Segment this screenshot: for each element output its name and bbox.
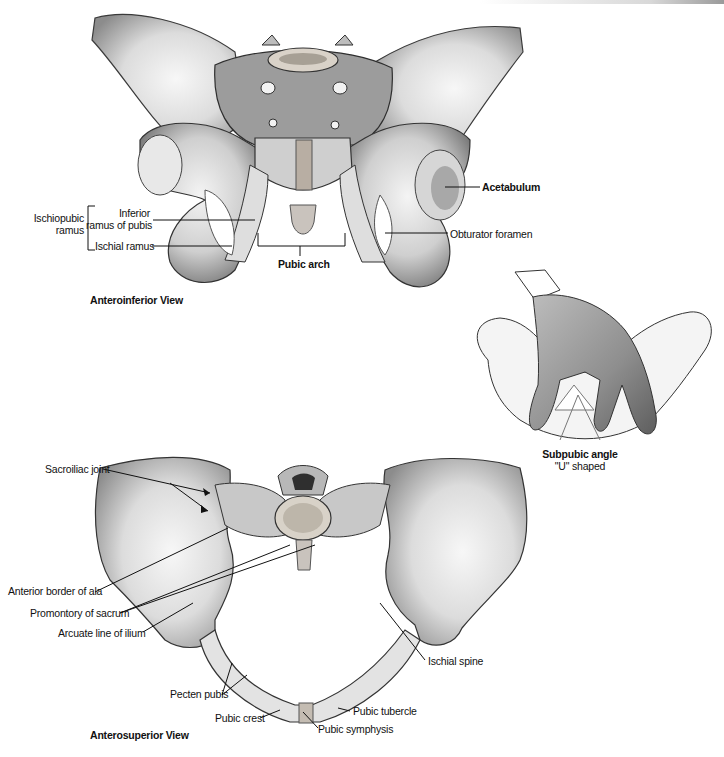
label-inferior-ramus-line2: ramus of pubis [86, 219, 150, 231]
label-ischial-spine: Ischial spine [428, 655, 483, 667]
label-pubic-tubercle: Pubic tubercle [353, 705, 417, 717]
label-inferior-ramus-of-pubis: Inferior ramus of pubis [86, 207, 150, 231]
anterosuperior-pelvis [95, 457, 526, 723]
view-title-anteroinferior: Anteroinferior View [90, 294, 183, 306]
label-subpubic-angle: Subpubic angle [540, 448, 620, 460]
label-inferior-ramus-line1: Inferior [86, 207, 150, 219]
label-obturator-foramen: Obturator foramen [450, 228, 532, 240]
subpubic-angle-inset [477, 270, 711, 440]
label-ischial-ramus: Ischial ramus [95, 240, 154, 252]
label-ischiopubic-ramus: Ischiopubic ramus [20, 212, 84, 236]
label-pubic-symphysis: Pubic symphysis [318, 723, 393, 735]
label-promontory-of-sacrum: Promontory of sacrum [30, 607, 129, 619]
pelvis-illustrations [0, 0, 724, 757]
label-acetabulum: Acetabulum [482, 181, 540, 193]
label-ischiopubic-line1: Ischiopubic [20, 212, 84, 224]
label-u-shaped: "U" shaped [540, 460, 620, 472]
label-ischiopubic-line2: ramus [20, 224, 84, 236]
label-arcuate-line-of-ilium: Arcuate line of ilium [58, 627, 145, 639]
label-pubic-arch: Pubic arch [278, 258, 330, 270]
label-anterior-border-of-ala: Anterior border of ala [8, 585, 102, 597]
label-pecten-pubis: Pecten pubis [170, 688, 228, 700]
view-title-anterosuperior: Anterosuperior View [90, 729, 189, 741]
label-pubic-crest: Pubic crest [215, 712, 265, 724]
label-sacroiliac-joint: Sacroiliac joint [45, 463, 110, 475]
